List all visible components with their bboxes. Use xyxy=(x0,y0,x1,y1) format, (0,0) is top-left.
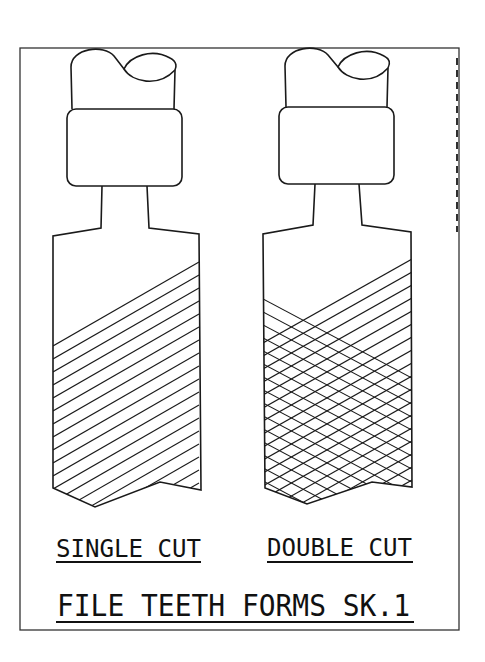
double-cut-handle-cap xyxy=(285,48,389,107)
single-cut-teeth-hatch xyxy=(53,262,199,580)
sketch-title: FILE TEETH FORMS SK.1 xyxy=(57,587,410,623)
drawing-sheet: SINGLE CUT DOUBLE CUT FILE TEETH FORMS S… xyxy=(0,0,485,662)
double-cut-label: DOUBLE CUT xyxy=(267,534,412,562)
double-cut-file xyxy=(263,48,412,577)
single-cut-file xyxy=(53,49,201,580)
double-cut-teeth-crosshatch xyxy=(263,259,412,577)
sketch-title-block: FILE TEETH FORMS SK.1 xyxy=(56,587,414,623)
double-cut-ferrule xyxy=(279,107,394,184)
single-cut-ferrule xyxy=(67,109,182,186)
drawing-canvas: SINGLE CUT DOUBLE CUT FILE TEETH FORMS S… xyxy=(0,0,485,662)
single-cut-handle-cap xyxy=(71,49,176,109)
single-cut-label: SINGLE CUT xyxy=(56,535,201,563)
figure-labels: SINGLE CUT DOUBLE CUT xyxy=(56,534,413,563)
